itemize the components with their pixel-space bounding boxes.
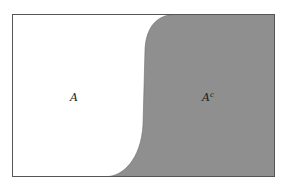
set-a-label: A [69,91,78,104]
venn-diagram: A Ac [0,0,288,184]
